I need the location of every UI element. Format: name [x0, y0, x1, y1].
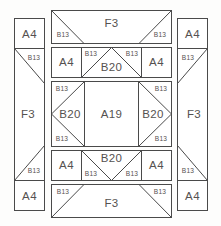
- side-panel-right: B13 F3 B13: [178, 49, 208, 181]
- corner-square-bottom-right-label: A4: [185, 190, 200, 202]
- center-band-middle: B13 B20 B13 A19 B13 B20 B13: [52, 82, 172, 147]
- corner-square-top-right: A4: [178, 19, 208, 49]
- side-panel-left: B13 F3 B13: [15, 49, 45, 181]
- center-band-lower-left-triangle-label: B13: [85, 170, 97, 177]
- side-panel-right-top-triangle-label: B13: [182, 54, 194, 61]
- center-square-label: A19: [101, 108, 123, 120]
- quilt-block-diagram: A4 A4 A4 A4 B13 F3 B13: [0, 0, 221, 226]
- center-band-top-right-triangle-label: B13: [154, 31, 166, 38]
- center-band-lower-right-triangle-label: B13: [126, 170, 138, 177]
- center-band-top-left-triangle-label: B13: [57, 31, 69, 38]
- side-panel-left-bottom-triangle-label: B13: [28, 167, 40, 174]
- center-band-middle-right-top-triangle-label: B13: [155, 85, 167, 92]
- center-band-upper-left-triangle-label: B13: [85, 50, 97, 57]
- center-band-bottom-right-triangle-label: B13: [154, 188, 166, 195]
- corner-square-top-left-label: A4: [22, 28, 37, 40]
- center-band-top-center-label: F3: [104, 17, 118, 29]
- center-band-bottom-left-triangle-label: B13: [57, 188, 69, 195]
- center-band-middle-right-triangle-label: B20: [142, 108, 164, 120]
- center-band-bottom: B13 F3 B13: [52, 185, 172, 218]
- side-panel-right-bottom-triangle-label: B13: [182, 167, 194, 174]
- corner-square-top-right-label: A4: [185, 28, 200, 40]
- center-band-middle-left-bottom-triangle-label: B13: [56, 135, 68, 142]
- center-band-upper-inner: A4 B13 B20 B13 A4: [52, 48, 172, 78]
- center-band-lower-center-triangle-label: B20: [101, 152, 123, 164]
- corner-square-top-left: A4: [15, 19, 45, 49]
- corner-square-bottom-right: A4: [178, 181, 208, 211]
- side-panel-right-center-label: F3: [187, 108, 201, 120]
- center-band-middle-right-bottom-triangle-label: B13: [155, 135, 167, 142]
- center-band-upper-right-square-label: A4: [149, 56, 164, 68]
- center-band-middle-left-top-triangle-label: B13: [56, 85, 68, 92]
- center-band-lower-left-square-label: A4: [59, 159, 74, 171]
- center-band-upper-right-triangle-label: B13: [126, 50, 138, 57]
- center-band-upper-left-square-label: A4: [59, 56, 74, 68]
- center-band-middle-left-triangle-label: B20: [59, 108, 81, 120]
- center-band-top: B13 F3 B13: [52, 11, 172, 44]
- side-panel-left-center-label: F3: [21, 108, 35, 120]
- center-band-upper-center-triangle-label: B20: [101, 61, 123, 73]
- corner-square-bottom-left-label: A4: [22, 190, 37, 202]
- center-band-lower-inner: A4 B13 B20 B13 A4: [52, 151, 172, 181]
- corner-square-bottom-left: A4: [15, 181, 45, 211]
- side-panel-left-top-triangle-label: B13: [28, 54, 40, 61]
- quilt-diagram-canvas: A4 A4 A4 A4 B13 F3 B13: [0, 0, 221, 226]
- center-band-bottom-center-label: F3: [104, 197, 118, 209]
- center-band-lower-right-square-label: A4: [149, 159, 164, 171]
